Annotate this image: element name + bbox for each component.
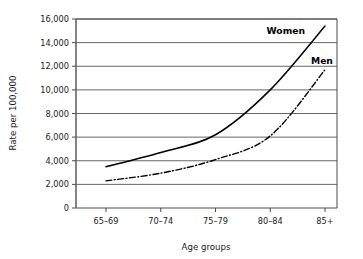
y-tick-label: 2,000 [46, 179, 69, 189]
y-tick-label: 10,000 [40, 85, 69, 95]
x-tick-label: 85+ [316, 216, 333, 226]
x-tick-label: 65–69 [94, 216, 119, 226]
series-label-women: Women [267, 25, 305, 36]
x-tick-label: 75–79 [203, 216, 228, 226]
y-axis-ticks: 02,0004,0006,0008,00010,00012,00014,0001… [40, 14, 76, 213]
x-tick-label: 80–84 [258, 216, 283, 226]
y-tick-label: 12,000 [40, 61, 69, 71]
y-tick-label: 16,000 [40, 14, 69, 24]
x-axis-ticks: 65–6970–7475–7980–8485+ [94, 208, 334, 226]
y-tick-label: 8,000 [46, 109, 69, 119]
y-tick-label: 0 [64, 203, 69, 213]
chart-figure: 02,0004,0006,0008,00010,00012,00014,0001… [0, 0, 363, 259]
line-chart: 02,0004,0006,0008,00010,00012,00014,0001… [0, 0, 363, 259]
y-axis-title: Rate per 100,000 [8, 76, 18, 151]
y-tick-label: 4,000 [46, 156, 69, 166]
x-axis-title: Age groups [182, 242, 231, 252]
y-tick-label: 14,000 [40, 38, 69, 48]
y-tick-label: 6,000 [46, 132, 69, 142]
series-label-men: Men [311, 55, 333, 66]
x-tick-label: 70–74 [148, 216, 173, 226]
